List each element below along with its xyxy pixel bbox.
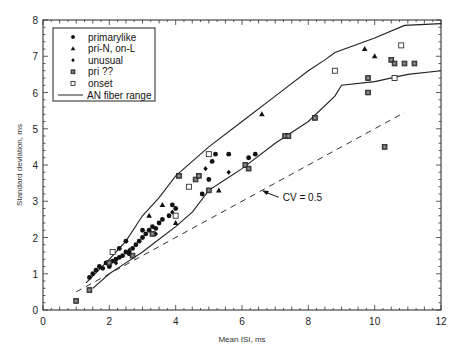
open-square-marker [173,213,178,218]
circle-marker [137,239,142,244]
hatched-square-marker [313,115,318,120]
hatched-square-marker [130,253,135,258]
x-axis-title: Mean ISI, ms [218,335,265,344]
series-pri-n-on-l [126,46,377,252]
hatched-square-marker [74,299,79,304]
circle-marker [143,231,148,236]
hatched-square-marker [286,134,291,139]
x-tick-label: 6 [239,316,245,327]
hatched-square-marker [412,61,417,66]
circle-marker [246,155,251,160]
triangle-marker [372,53,378,58]
open-square-marker [186,184,191,189]
circle-marker [120,253,125,258]
open-square-marker [332,68,337,73]
y-tick-label: 3 [32,196,38,207]
hatched-square-marker [382,144,387,149]
hatched-square-marker [366,76,371,81]
y-tick-labels: 012345678 [32,15,38,316]
hatched-square-marker [196,173,201,178]
circle-marker [170,202,175,207]
circle-marker [210,159,215,164]
x-tick-label: 12 [435,316,447,327]
open-square-marker [110,250,115,255]
x-tick-label: 0 [40,316,46,327]
open-square-marker [392,76,397,81]
y-tick-label: 7 [32,51,38,62]
x-tick-label: 2 [107,316,113,327]
circle-marker [71,35,75,39]
y-tick-label: 6 [32,88,38,99]
triangle-marker [362,46,368,51]
series-primarylike [87,152,258,280]
y-tick-label: 5 [32,124,38,135]
open-square-marker [71,81,75,85]
open-square-marker [206,152,211,157]
diamond-marker [203,166,207,171]
x-tick-label: 8 [306,316,312,327]
y-tick-label: 1 [32,269,38,280]
cv-dashed-line [76,112,404,291]
hatched-square-marker [71,70,75,74]
x-tick-label: 4 [173,316,179,327]
open-square-marker [399,43,404,48]
envelope-lower-line [93,71,441,288]
scatter-plot: 024681012 012345678 CV = 0.5 Mean ISI, m… [0,0,460,352]
legend: primarylikepri-N, on-Lunusualpri ??onset… [53,28,155,101]
hatched-square-marker [87,288,92,293]
cv-label: CV = 0.5 [283,192,323,203]
circle-marker [133,242,138,247]
arrow-line [266,192,279,197]
x-tick-labels: 024681012 [40,316,447,327]
circle-marker [226,152,231,157]
triangle-marker [259,111,265,116]
y-tick-label: 0 [32,305,38,316]
legend-label: onset [88,78,113,89]
diamond-marker [227,170,231,175]
x-tick-label: 10 [369,316,381,327]
legend-label: unusual [88,55,123,66]
circle-marker [253,152,258,157]
hatched-square-marker [177,173,182,178]
circle-marker [140,235,145,240]
chart-container: 024681012 012345678 CV = 0.5 Mean ISI, m… [0,0,460,352]
legend-label: primarylike [88,32,137,43]
circle-marker [173,206,178,211]
circle-marker [90,271,95,276]
circle-marker [124,239,129,244]
legend-label: AN fiber range [87,90,152,101]
circle-marker [130,246,135,251]
legend-label: pri ?? [88,66,113,77]
hatched-square-marker [107,260,112,265]
circle-marker [157,221,162,226]
triangle-marker [160,202,166,207]
hatched-square-marker [206,188,211,193]
circle-marker [94,268,99,273]
circle-marker [87,275,92,280]
circle-marker [117,246,122,251]
circle-marker [167,213,172,218]
legend-label: pri-N, on-L [88,43,136,54]
cv-reference-line [76,112,404,291]
triangle-marker [173,220,179,225]
triangle-marker [216,187,222,192]
hatched-square-marker [150,231,155,236]
arrow-head-icon [262,190,269,195]
y-tick-label: 8 [32,15,38,26]
circle-marker [206,177,211,182]
hatched-square-marker [402,61,407,66]
y-tick-label: 2 [32,233,38,244]
circle-marker [100,266,105,271]
y-axis-title: Standard deviation, ms [15,124,24,206]
circle-marker [153,226,158,231]
circle-marker [140,228,145,233]
circle-marker [213,152,218,157]
hatched-square-marker [366,90,371,95]
circle-marker [160,217,165,222]
y-tick-label: 4 [32,160,38,171]
hatched-square-marker [392,61,397,66]
cv-annotation: CV = 0.5 [262,190,323,203]
circle-marker [200,192,205,197]
triangle-marker [146,213,152,218]
hatched-square-marker [246,166,251,171]
